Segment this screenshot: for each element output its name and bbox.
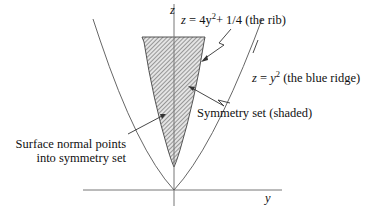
symmetry-set-label: Symmetry set (shaded) — [197, 106, 312, 120]
ridge-desc: (the blue ridge) — [280, 71, 360, 85]
rib-coef: 4y — [199, 13, 212, 27]
ridge-equation-label: z = y2 (the blue ridge) — [252, 71, 360, 85]
rib-rest: + 1/4 — [216, 13, 242, 27]
ridge-pointer — [253, 40, 258, 53]
rib-eq: = — [186, 13, 199, 27]
rib-desc: (the rib) — [242, 13, 286, 27]
normal-label: Surface normal points into symmetry set — [14, 137, 126, 165]
rib-pointer — [204, 29, 231, 59]
z-axis-label: z — [170, 3, 175, 17]
rib-equation-label: z = 4y2+ 1/4 (the rib) — [181, 13, 286, 27]
ridge-eq: = — [257, 71, 270, 85]
y-axis-label: y — [265, 191, 271, 205]
symmetry-pointer — [192, 88, 230, 106]
normal-label-line1: Surface normal points — [14, 137, 126, 151]
ridge-parabola-extension-left — [93, 19, 100, 40]
diagram-canvas — [0, 0, 381, 217]
normal-label-line2: into symmetry set — [14, 151, 126, 165]
